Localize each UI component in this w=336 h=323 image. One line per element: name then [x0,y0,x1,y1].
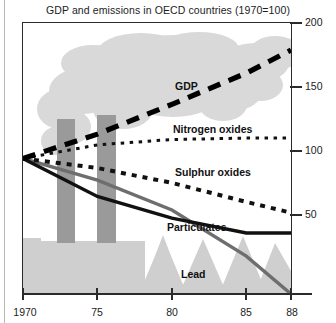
y-tick-200 [290,22,302,24]
chart-title: GDP and emissions in OECD countries (197… [0,4,336,16]
y-tick-label-200: 200 [305,16,323,28]
y-tick-label-150: 150 [305,80,323,92]
page-left-rule [4,0,5,323]
x-tick-80 [171,288,173,300]
plot-svg [23,23,291,294]
series-label-sulphur-oxides: Sulphur oxides [175,166,251,178]
series-label-lead: Lead [181,268,206,280]
chart-page: GDP and emissions in OECD countries (197… [0,0,336,323]
x-tick-label-75: 75 [91,306,103,318]
y-tick-label-50: 50 [305,208,317,220]
y-axis: 200 150 100 50 [290,0,336,323]
smoke-plume-artwork [37,32,291,155]
x-tick-label-1970: 1970 [13,306,36,318]
x-tick-85 [245,288,247,300]
y-tick-150 [290,86,302,88]
x-tick-1970 [22,288,24,300]
x-tick-label-85: 85 [240,306,252,318]
series-label-particulates: Particulates [167,221,227,233]
series-label-nitrogen-oxides: Nitrogen oxides [173,123,252,135]
series-label-gdp: GDP [175,80,198,92]
y-tick-50 [290,214,302,216]
x-axis: 1970 75 80 85 88 [0,293,336,323]
x-tick-75 [96,288,98,300]
x-tick-label-80: 80 [166,306,178,318]
y-tick-100 [290,150,302,152]
plot-area: GDP Nitrogen oxides Sulphur oxides Parti… [22,22,292,295]
y-tick-label-100: 100 [305,144,323,156]
x-tick-label-88: 88 [286,306,298,318]
x-tick-88 [290,288,292,300]
x-axis-line [22,293,312,295]
